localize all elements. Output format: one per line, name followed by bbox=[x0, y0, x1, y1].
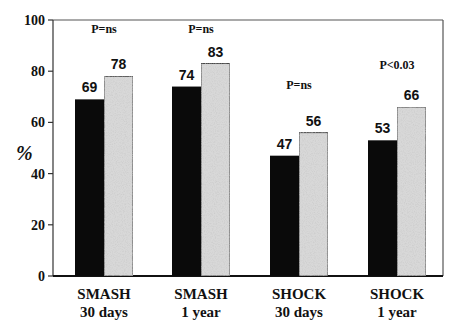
bar-group: 5366P<0.03 bbox=[368, 58, 426, 276]
bar-group: 4756P=ns bbox=[270, 78, 328, 276]
x-tick-label: 1 year bbox=[377, 304, 417, 320]
bars: 6978P=ns7483P=ns4756P=ns5366P<0.03 bbox=[75, 22, 426, 276]
bar-gray bbox=[397, 107, 426, 276]
bar-group: 6978P=ns bbox=[75, 22, 133, 276]
bar-value-label: 47 bbox=[277, 136, 293, 152]
x-tick-label: SHOCK bbox=[272, 286, 327, 302]
bar-value-label: 53 bbox=[375, 120, 391, 136]
y-axis-label: % bbox=[16, 142, 33, 164]
y-tick-label: 0 bbox=[38, 269, 45, 284]
x-tick-label: SHOCK bbox=[370, 286, 425, 302]
bar-value-label: 56 bbox=[306, 113, 322, 129]
bar-chart: 020406080100 6978P=ns7483P=ns4756P=ns536… bbox=[0, 0, 460, 327]
y-tick-label: 40 bbox=[31, 167, 45, 182]
bar-black bbox=[75, 99, 104, 276]
p-value-annotation: P<0.03 bbox=[379, 58, 414, 72]
bar-value-label: 66 bbox=[404, 87, 420, 103]
bar-black bbox=[270, 156, 299, 276]
bar-value-label: 78 bbox=[111, 56, 127, 72]
bar-value-label: 74 bbox=[179, 67, 195, 83]
bar-gray bbox=[201, 64, 230, 276]
bar-black bbox=[172, 87, 201, 276]
bar-gray bbox=[299, 133, 328, 276]
y-tick-label: 80 bbox=[31, 64, 45, 79]
bar-gray bbox=[104, 76, 133, 276]
x-tick-label: 1 year bbox=[181, 304, 221, 320]
x-axis-labels: SMASH30 daysSMASH1 yearSHOCK30 daysSHOCK… bbox=[77, 286, 424, 320]
p-value-annotation: P=ns bbox=[188, 22, 214, 36]
y-tick-label: 100 bbox=[24, 13, 45, 28]
x-tick-label: SMASH bbox=[77, 286, 131, 302]
bar-value-label: 69 bbox=[82, 79, 98, 95]
y-tick-label: 60 bbox=[31, 115, 45, 130]
bar-black bbox=[368, 140, 397, 276]
bar-group: 7483P=ns bbox=[172, 22, 230, 276]
p-value-annotation: P=ns bbox=[91, 22, 117, 36]
x-tick-label: 30 days bbox=[80, 304, 128, 320]
p-value-annotation: P=ns bbox=[286, 78, 312, 92]
y-tick-label: 20 bbox=[31, 218, 45, 233]
x-tick-label: 30 days bbox=[275, 304, 323, 320]
bar-value-label: 83 bbox=[208, 44, 224, 60]
x-tick-label: SMASH bbox=[174, 286, 228, 302]
